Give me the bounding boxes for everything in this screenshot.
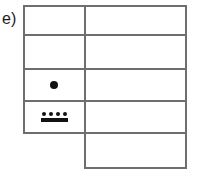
cell-row3-right <box>86 70 184 99</box>
cell-row2-right <box>86 36 184 67</box>
dot-icon <box>63 112 67 116</box>
cell-row2-left <box>25 36 83 67</box>
dot-row <box>42 112 67 116</box>
cell-row4-right <box>86 102 184 131</box>
figure-part-label: e) <box>2 9 16 28</box>
cell-row5-right <box>86 134 184 167</box>
cell-row3-left <box>25 70 83 99</box>
cell-row1-left <box>25 7 83 33</box>
dot-icon <box>49 112 53 116</box>
cell-row1-right <box>86 7 184 33</box>
cell-row4-left <box>25 102 83 131</box>
four-dots-over-bar-icon <box>41 112 68 122</box>
grid-line-bottom <box>84 167 187 169</box>
bar-icon <box>41 118 68 122</box>
dot-icon <box>56 112 60 116</box>
figure-container: e) <box>0 0 197 173</box>
dot-icon <box>42 112 46 116</box>
single-dot-icon <box>50 81 58 89</box>
grid-line-right-edge <box>185 5 187 169</box>
